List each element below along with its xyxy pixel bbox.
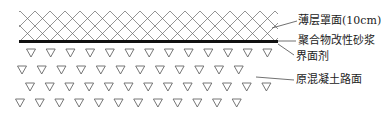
label-overlay: 薄层罩面(10cm) [298, 15, 381, 27]
label-concrete: 原混凝土路面 [296, 74, 362, 86]
pavement-section-diagram: 薄层罩面(10cm) 聚合物改性砂浆 界面剂 原混凝土路面 [0, 0, 381, 118]
leader-lines [256, 21, 297, 80]
leader-overlay [272, 21, 297, 28]
label-interface: 界面剂 [296, 51, 329, 63]
leader-concrete [256, 77, 294, 80]
overlay-crosshatch [0, 11, 335, 41]
mortar-layer-line [19, 40, 278, 43]
leader-interface [278, 44, 294, 55]
concrete-triangles [16, 49, 272, 107]
label-mortar: 聚合物改性砂浆 [298, 35, 375, 47]
